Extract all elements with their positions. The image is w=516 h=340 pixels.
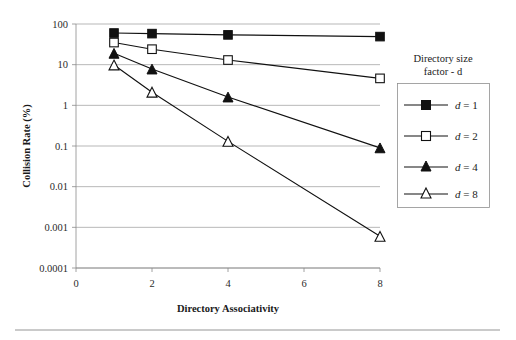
legend-label-d4: d = 4	[455, 161, 478, 173]
legend-label-d2-value: = 2	[461, 130, 478, 142]
legend-label-d1-value: = 1	[461, 99, 478, 111]
y-tick-label: 0.0001	[39, 263, 68, 274]
filled-square-data-point	[148, 29, 157, 38]
legend-label-d4-value: = 4	[461, 161, 479, 173]
legend-label-d2: d = 2	[455, 130, 478, 142]
legend-item-d8[interactable]: d = 8	[404, 188, 478, 200]
legend-item-d1[interactable]: d = 1	[404, 99, 478, 111]
x-tick-label: 6	[301, 278, 306, 289]
open-triangle-icon	[421, 188, 431, 198]
filled-square-icon	[422, 101, 431, 110]
x-tick-label: 0	[73, 278, 78, 289]
figure-container: 100 10 1 0.1 0.01 0.001 0.0001 0 2 4 6 8	[0, 0, 516, 340]
y-tick-marks	[72, 24, 76, 268]
collision-rate-chart: 100 10 1 0.1 0.01 0.001 0.0001 0 2 4 6 8	[0, 0, 516, 340]
x-tick-marks	[76, 268, 380, 272]
legend-item-d4[interactable]: d = 4	[404, 161, 478, 173]
y-tick-label: 100	[52, 19, 68, 30]
legend-label-d8-value: = 8	[461, 188, 479, 200]
open-square-data-point	[110, 38, 119, 47]
filled-triangle-icon	[421, 161, 431, 171]
x-tick-label: 2	[149, 278, 154, 289]
open-square-data-point	[224, 56, 233, 65]
legend-item-d2[interactable]: d = 2	[404, 130, 478, 142]
y-tick-label: 0.1	[55, 141, 68, 152]
x-axis-title: Directory Associativity	[177, 303, 280, 314]
filled-square-data-point	[110, 29, 119, 38]
filled-square-data-point	[376, 32, 385, 41]
open-square-icon	[422, 132, 431, 141]
legend-title-line-2-text: factor - d	[424, 66, 463, 77]
legend-title-line-1: Directory size	[413, 53, 473, 64]
x-tick-label: 4	[225, 278, 231, 289]
y-axis-title: Collision Rate (%)	[21, 104, 33, 188]
y-tick-label: 0.001	[44, 222, 68, 233]
x-tick-labels: 0 2 4 6 8	[73, 278, 382, 289]
y-tick-labels: 100 10 1 0.1 0.01 0.001 0.0001	[39, 19, 68, 274]
legend-label-d1: d = 1	[455, 99, 478, 111]
legend: Directory size factor - d d = 1 d = 2	[398, 53, 490, 208]
legend-label-d8: d = 8	[455, 188, 478, 200]
y-tick-label: 10	[58, 59, 69, 70]
y-tick-label: 1	[63, 100, 68, 111]
legend-title-line-2: factor - d	[424, 66, 463, 77]
open-square-data-point	[148, 45, 157, 54]
filled-square-data-point	[224, 31, 233, 40]
y-tick-label: 0.01	[50, 181, 68, 192]
open-square-data-point	[376, 74, 385, 83]
x-tick-label: 8	[377, 278, 382, 289]
